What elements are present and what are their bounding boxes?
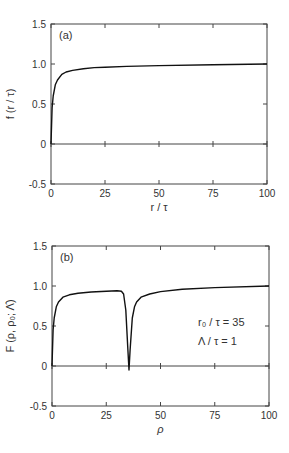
y-tick-label: 0.5 xyxy=(33,321,47,332)
y-axis-label: f (r / τ) xyxy=(4,89,16,120)
y-tick-label: 0 xyxy=(40,139,46,150)
panel-label: (a) xyxy=(59,29,72,41)
y-tick-label: 1.0 xyxy=(32,59,46,70)
x-tick-label: 75 xyxy=(207,188,219,199)
annotation: r₀ / τ = 35 xyxy=(198,316,245,328)
annotation: Λ / τ = 1 xyxy=(198,335,237,347)
panel-a: 02550751001.51.00.50-0.5(a)r / τf (r / τ… xyxy=(4,19,276,213)
plot-frame xyxy=(51,24,267,184)
x-tick-label: 50 xyxy=(153,188,165,199)
x-axis-label: ρ xyxy=(156,423,163,435)
x-axis-label: r / τ xyxy=(150,201,168,213)
data-line xyxy=(52,286,269,370)
figure: 02550751001.51.00.50-0.5(a)r / τf (r / τ… xyxy=(0,0,289,453)
x-tick-label: 100 xyxy=(261,410,278,421)
y-tick-label: 0 xyxy=(41,361,47,372)
y-tick-label: -0.5 xyxy=(30,401,48,412)
y-tick-label: 0.5 xyxy=(32,99,46,110)
y-tick-label: -0.5 xyxy=(29,179,47,190)
y-tick-label: 1.0 xyxy=(33,281,47,292)
panel-b: 02550751001.51.00.50-0.5(b)ρF (ρ, ρ₀; Λ̂… xyxy=(4,241,278,435)
panel-label: (b) xyxy=(60,251,73,263)
y-tick-label: 1.5 xyxy=(32,19,46,30)
x-tick-label: 0 xyxy=(48,188,54,199)
x-tick-label: 0 xyxy=(49,410,55,421)
x-tick-label: 25 xyxy=(99,188,111,199)
y-tick-label: 1.5 xyxy=(33,241,47,252)
x-tick-label: 100 xyxy=(259,188,276,199)
x-tick-label: 75 xyxy=(209,410,221,421)
x-tick-label: 50 xyxy=(155,410,167,421)
data-line xyxy=(51,64,267,144)
y-axis-label: F (ρ, ρ₀; Λ̂) xyxy=(4,299,16,352)
x-tick-label: 25 xyxy=(101,410,113,421)
